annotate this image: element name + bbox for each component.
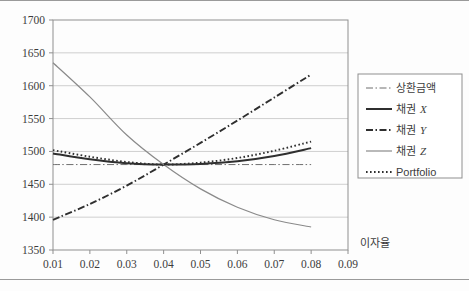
legend-label: 채권 X bbox=[396, 103, 428, 115]
legend-label-symbol: Z bbox=[420, 145, 427, 157]
x-axis-tick-labels: 0.010.020.030.040.050.060.070.080.09 bbox=[43, 258, 358, 270]
legend: 상환금액채권 X채권 Y채권 ZPortfolio bbox=[358, 74, 462, 178]
legend-label: 채권 Y bbox=[396, 124, 428, 136]
y-tick-label: 1400 bbox=[22, 211, 45, 223]
y-tick-label: 1550 bbox=[22, 113, 45, 125]
y-tick-label: 1500 bbox=[22, 145, 45, 157]
y-tick-label: 1600 bbox=[22, 80, 45, 92]
plot-area: 13501400145015001550160016501700 0.010.0… bbox=[0, 0, 469, 291]
x-tick-label: 0.01 bbox=[43, 258, 63, 270]
y-axis-tick-labels: 13501400145015001550160016501700 bbox=[22, 14, 45, 256]
x-tick-label: 0.05 bbox=[190, 258, 210, 270]
x-tick-label: 0.02 bbox=[80, 258, 100, 270]
y-tick-marks bbox=[49, 20, 53, 250]
plot-frame bbox=[53, 20, 348, 250]
chart-svg: 13501400145015001550160016501700 0.010.0… bbox=[0, 0, 469, 291]
series-line bbox=[53, 75, 311, 220]
y-tick-label: 1650 bbox=[22, 47, 45, 59]
x-tick-label: 0.03 bbox=[117, 258, 137, 270]
x-tick-label: 0.07 bbox=[264, 258, 284, 270]
legend-label: Portfolio bbox=[396, 166, 436, 178]
x-tick-label: 0.06 bbox=[227, 258, 247, 270]
x-tick-label: 0.09 bbox=[338, 258, 358, 270]
chart-figure: 13501400145015001550160016501700 0.010.0… bbox=[0, 0, 469, 291]
legend-label: 채권 Z bbox=[396, 145, 427, 157]
series-line bbox=[53, 148, 311, 164]
y-tick-label: 1700 bbox=[22, 14, 45, 26]
x-tick-label: 0.08 bbox=[301, 258, 321, 270]
y-tick-label: 1350 bbox=[22, 244, 45, 256]
x-tick-marks bbox=[53, 250, 348, 254]
legend-label-symbol: X bbox=[419, 103, 428, 115]
legend-label: 상환금액 bbox=[396, 82, 436, 94]
x-axis-label: 이자율 bbox=[360, 237, 390, 249]
y-tick-label: 1450 bbox=[22, 178, 45, 190]
series-layer bbox=[53, 63, 311, 227]
gridlines bbox=[53, 53, 348, 217]
x-tick-label: 0.04 bbox=[154, 258, 174, 270]
